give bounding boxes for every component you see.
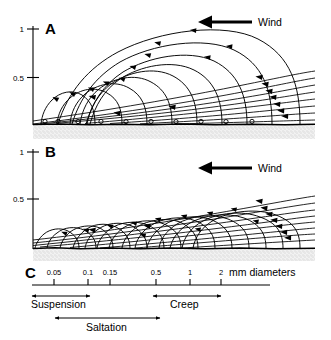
figure-root: 1 0.5 A Wind — [0, 0, 331, 340]
y-tick-label-1-b: 1 — [20, 148, 25, 157]
sand-bed-a — [33, 125, 315, 139]
scale-tick-label-1: 0.1 — [83, 268, 93, 277]
wind-arrow-b — [198, 162, 252, 175]
scale-tick-label-3: 0.5 — [151, 268, 161, 277]
panel-letter-c: C — [25, 264, 36, 281]
y-tick-label-05-a: 0.5 — [13, 74, 25, 83]
wind-arrow-a — [198, 16, 252, 29]
range-label-suspension: Suspension — [31, 298, 86, 310]
range-label-saltation: Saltation — [86, 321, 127, 333]
grain-size-ticks — [54, 279, 221, 285]
range-label-creep: Creep — [170, 298, 199, 310]
bed-surface-line-a — [33, 124, 315, 125]
panel-letter-a: A — [45, 20, 56, 37]
y-tick-label-05-b: 0.5 — [13, 195, 25, 204]
panel-a: 1 0.5 A Wind — [13, 16, 315, 140]
sand-bed-b — [33, 249, 315, 261]
wind-label-a: Wind — [258, 16, 282, 28]
bed-surface-line-b — [33, 248, 315, 249]
panel-b: 1 0.5 B Wind — [13, 143, 315, 261]
scale-tick-label-4: 1 — [188, 268, 192, 277]
panel-letter-b: B — [45, 143, 56, 160]
scale-tick-label-0: 0.05 — [47, 268, 62, 277]
wind-label-b: Wind — [258, 162, 282, 174]
panel-c: C 0.05 0.1 0.15 0.5 1 2 mm diameters Sus… — [25, 264, 296, 333]
scale-tick-label-5: 2 — [219, 268, 223, 277]
trajectory-arrowheads-a — [51, 28, 232, 102]
scale-tick-label-2: 0.15 — [103, 268, 118, 277]
y-tick-label-1-a: 1 — [20, 25, 25, 34]
grain-size-units-label: mm diameters — [229, 266, 296, 278]
